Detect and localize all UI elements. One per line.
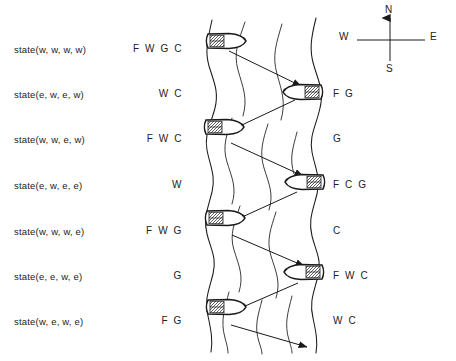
state-label-row-3: state(e, w, e, e): [14, 180, 82, 191]
crossing-arrow-1: [229, 51, 301, 86]
west-bank-cargo-row-2: F W C: [103, 133, 183, 144]
boat-west-row-2: [205, 120, 245, 135]
west-bank-cargo-row-3: W: [103, 179, 183, 190]
diagram-canvas: state(w, w, w, w) state(e, w, e, w) stat…: [0, 0, 456, 361]
state-label-row-0: state(w, w, w, w): [14, 44, 86, 55]
compass-label-west: W: [339, 31, 348, 42]
state-label-row-2: state(w, w, e, w): [14, 134, 85, 145]
east-bank-cargo-row-2: G: [333, 133, 342, 144]
west-bank-cargo-row-6: F G: [103, 315, 183, 326]
east-bank-cargo-row-3: F C G: [333, 179, 368, 190]
west-bank-cargo-row-4: F W G: [103, 225, 183, 236]
boat-east-row-3: [285, 175, 325, 190]
state-label-row-4: state(w, w, w, e): [14, 226, 84, 237]
compass-label-north: N: [385, 4, 392, 15]
crossing-arrow-5: [232, 235, 304, 266]
compass-label-east: E: [430, 31, 437, 42]
east-bank-cargo-row-1: F G: [333, 88, 354, 99]
boat-east-row-5: [284, 265, 324, 280]
east-bank-cargo-row-6: W C: [333, 315, 357, 326]
compass-rose: N S W E: [337, 4, 441, 78]
west-bank-cargo-row-1: W C: [103, 88, 183, 99]
compass-label-south: S: [386, 63, 393, 74]
boat-west-row-4: [206, 211, 246, 226]
state-label-row-6: state(w, e, w, e): [14, 316, 83, 327]
boat-west-row-6: [207, 300, 247, 315]
west-bank-cargo-row-5: G: [103, 270, 183, 281]
east-bank-cargo-row-5: F W C: [333, 270, 369, 281]
boat-east-row-1: [283, 85, 323, 100]
east-bank-cargo-row-4: C: [333, 225, 342, 236]
boat-west-row-0: [207, 34, 247, 49]
state-label-row-5: state(e, e, w, e): [14, 271, 82, 282]
crossing-arrow-3: [231, 143, 303, 176]
crossing-arrow-7: [231, 325, 307, 347]
state-label-row-1: state(e, w, e, w): [14, 89, 84, 100]
west-bank-cargo-row-0: F W G C: [103, 43, 183, 54]
